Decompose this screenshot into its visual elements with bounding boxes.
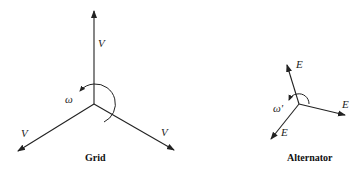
grid-rotation-arc	[80, 84, 115, 122]
alternator-phasor-group: E E E ω' Alternator	[271, 58, 349, 163]
alternator-label-e-right: E	[341, 98, 349, 110]
grid-label-v-top: V	[98, 37, 106, 49]
grid-label-v-left: V	[21, 127, 29, 139]
grid-phasor-group: V V V ω Grid	[18, 11, 174, 163]
grid-caption: Grid	[85, 152, 106, 163]
grid-label-v-right: V	[161, 126, 169, 138]
alternator-phasor-up	[287, 65, 299, 104]
grid-phasor-lower-left	[18, 104, 94, 151]
phasor-diagram: V V V ω Grid E E E ω' Alternator	[0, 0, 358, 174]
alternator-label-e-top: E	[295, 58, 303, 70]
alternator-label-omega-prime: ω'	[273, 102, 284, 114]
alternator-caption: Alternator	[287, 152, 333, 163]
alternator-phasor-right	[299, 104, 345, 115]
grid-label-omega: ω	[65, 93, 73, 105]
alternator-label-e-lower: E	[280, 126, 288, 138]
